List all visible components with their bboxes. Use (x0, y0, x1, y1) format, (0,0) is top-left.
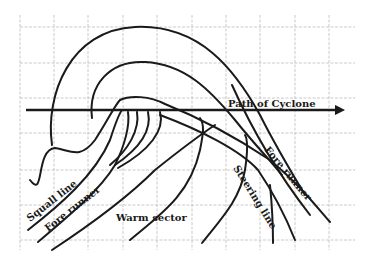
warm-sector-line-2 (202, 135, 247, 243)
second-streamline (92, 62, 282, 175)
warm-sector-label: Warm sector (115, 212, 188, 223)
fan-curve-1 (110, 112, 137, 165)
cyclone-diagram: Path of Cyclone Squall line Fore runner … (0, 0, 370, 264)
path-label: Path of Cyclone (228, 98, 316, 109)
